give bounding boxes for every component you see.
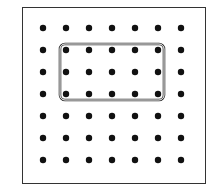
peg-dot <box>63 25 69 31</box>
peg-dot <box>132 25 138 31</box>
peg-dot <box>178 157 184 163</box>
peg-dot <box>109 47 115 53</box>
peg-dot <box>40 47 46 53</box>
peg-dot <box>178 25 184 31</box>
peg-dot <box>155 69 161 75</box>
peg-dot <box>109 157 115 163</box>
peg-dot <box>109 91 115 97</box>
peg-dot <box>155 113 161 119</box>
peg-dot <box>178 135 184 141</box>
peg-dot <box>155 157 161 163</box>
peg-dot <box>155 91 161 97</box>
peg-dot <box>40 69 46 75</box>
peg-dot <box>86 69 92 75</box>
peg-dot <box>86 135 92 141</box>
peg-dot <box>86 25 92 31</box>
peg-dot <box>63 135 69 141</box>
peg-dot <box>109 25 115 31</box>
peg-dot <box>40 113 46 119</box>
peg-dot <box>63 113 69 119</box>
peg-dot <box>109 135 115 141</box>
peg-dot <box>178 47 184 53</box>
peg-dot <box>86 47 92 53</box>
peg-dot <box>132 47 138 53</box>
peg-dot <box>155 47 161 53</box>
peg-dot <box>132 69 138 75</box>
peg-dot <box>109 69 115 75</box>
peg-dot <box>63 157 69 163</box>
peg-dot <box>155 135 161 141</box>
peg-dot <box>40 25 46 31</box>
peg-dot <box>109 113 115 119</box>
peg-dot <box>178 113 184 119</box>
peg-dot <box>63 91 69 97</box>
peg-dot <box>132 135 138 141</box>
peg-dot <box>86 113 92 119</box>
peg-dot <box>63 47 69 53</box>
peg-dot <box>178 69 184 75</box>
peg-dot <box>63 69 69 75</box>
peg-dot <box>132 91 138 97</box>
peg-dot <box>132 157 138 163</box>
peg-dot <box>40 135 46 141</box>
peg-dot <box>86 157 92 163</box>
geoboard-canvas <box>0 0 214 186</box>
peg-dot <box>178 91 184 97</box>
peg-dot <box>155 25 161 31</box>
peg-dot <box>86 91 92 97</box>
peg-dot <box>40 91 46 97</box>
peg-dot <box>132 113 138 119</box>
peg-dot <box>40 157 46 163</box>
